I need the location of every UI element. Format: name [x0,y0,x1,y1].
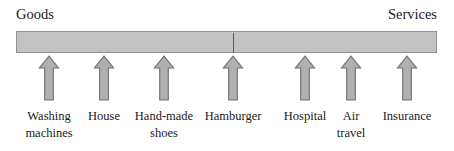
item-label: Airtravel [337,108,365,141]
arrow-hand-made-shoes-icon [153,55,175,101]
item-label: Hospital [284,108,326,125]
item-label: Hamburger [205,108,262,125]
item-label: Insurance [383,108,432,125]
arrow-house-icon [93,55,115,101]
item-label: Hand-madeshoes [135,108,193,141]
arrow-air-travel-icon [340,55,362,101]
item-label: House [88,108,120,125]
item-label-line1: Hand-made [135,109,193,123]
arrow-hamburger-icon [222,55,244,101]
item-label-line1: Hamburger [205,109,262,123]
item-label-line2: machines [25,125,72,142]
item-label: Washingmachines [25,108,72,141]
arrow-insurance-icon [396,55,418,101]
goods-services-spectrum-figure: Goods Services WashingmachinesHouseHand-… [0,0,454,151]
spectrum-midpoint-tick [233,33,234,53]
item-label-line1: House [88,109,120,123]
item-label-line1: Air [343,109,360,123]
arrow-washing-machines-icon [38,55,60,101]
item-label-line2: travel [337,125,365,142]
item-label-line1: Insurance [383,109,432,123]
item-label-line1: Hospital [284,109,326,123]
item-label-line2: shoes [135,125,193,142]
goods-end-label: Goods [16,7,54,22]
services-end-label: Services [388,7,437,22]
item-label-line1: Washing [27,109,70,123]
arrow-hospital-icon [294,55,316,101]
spectrum-bar [16,31,437,53]
